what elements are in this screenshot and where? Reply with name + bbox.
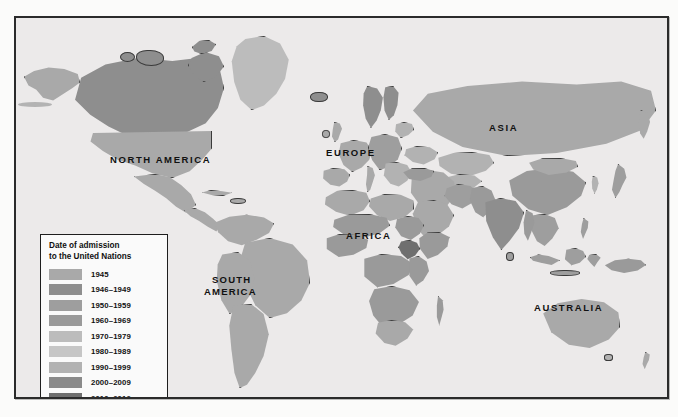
label-south-america-line2: AMERICA <box>204 286 257 297</box>
island-hispaniola <box>230 198 246 204</box>
legend-title: Date of admission to the United Nations <box>49 241 160 262</box>
legend-item[interactable]: 1990–1999 <box>49 360 160 374</box>
legend-swatch <box>49 362 82 373</box>
country-ireland <box>322 130 330 138</box>
legend-label: 1990–1999 <box>91 363 131 372</box>
legend-item[interactable]: 2010–2012 <box>49 391 160 399</box>
country-iceland <box>310 92 328 102</box>
label-asia: ASIA <box>489 122 518 133</box>
legend-swatch <box>49 300 82 311</box>
island-sri-lanka <box>506 252 514 261</box>
label-europe: EUROPE <box>326 147 376 158</box>
legend-label: 1946–1949 <box>91 285 131 294</box>
legend-swatch <box>49 315 82 326</box>
page-root: the United countries members nations of … <box>0 0 678 417</box>
island-banks <box>120 52 135 62</box>
label-north-america: NORTH AMERICA <box>110 154 211 165</box>
legend-swatch <box>49 346 82 357</box>
legend-item[interactable]: 1960–1969 <box>49 314 160 328</box>
legend-label: 1950–1959 <box>91 301 131 310</box>
legend-label: 1960–1969 <box>91 316 131 325</box>
legend-swatch <box>49 331 82 342</box>
legend-item[interactable]: 2000–2009 <box>49 376 160 390</box>
legend-label: 1980–1989 <box>91 347 131 356</box>
legend-title-line2: to the United Nations <box>49 252 160 263</box>
legend-item[interactable]: 1945 <box>49 267 160 281</box>
label-south-america-line1: SOUTH <box>212 274 251 285</box>
legend-label: 2010–2012 <box>91 394 131 400</box>
legend-label: 1970–1979 <box>91 332 131 341</box>
legend-item[interactable]: 1980–1989 <box>49 345 160 359</box>
label-africa: AFRICA <box>346 230 392 241</box>
legend-swatch <box>49 377 82 388</box>
legend-label: 2000–2009 <box>91 378 131 387</box>
legend-swatch <box>49 284 82 295</box>
legend-item[interactable]: 1946–1949 <box>49 283 160 297</box>
legend-swatch <box>49 393 82 400</box>
legend-label: 1945 <box>91 270 109 279</box>
country-aleutian-islands <box>18 102 52 107</box>
legend-swatch <box>49 269 82 280</box>
island-tasmania <box>604 354 613 361</box>
label-australia: AUSTRALIA <box>534 302 603 313</box>
island-victoria <box>136 50 164 66</box>
legend-title-line1: Date of admission <box>49 241 160 252</box>
map-legend[interactable]: Date of admission to the United Nations … <box>40 234 168 399</box>
legend-item[interactable]: 1950–1959 <box>49 298 160 312</box>
island-java <box>550 270 580 276</box>
world-map[interactable]: NORTH AMERICA SOUTH AMERICA EUROPE AFRIC… <box>14 16 669 399</box>
legend-item[interactable]: 1970–1979 <box>49 329 160 343</box>
